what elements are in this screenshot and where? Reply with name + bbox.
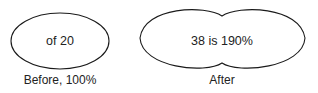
before-inner-text: of 20	[35, 34, 85, 48]
before-caption: Before, 100%	[10, 73, 110, 87]
after-caption: After	[197, 73, 247, 87]
after-inner-text: 38 is 190%	[182, 34, 262, 48]
